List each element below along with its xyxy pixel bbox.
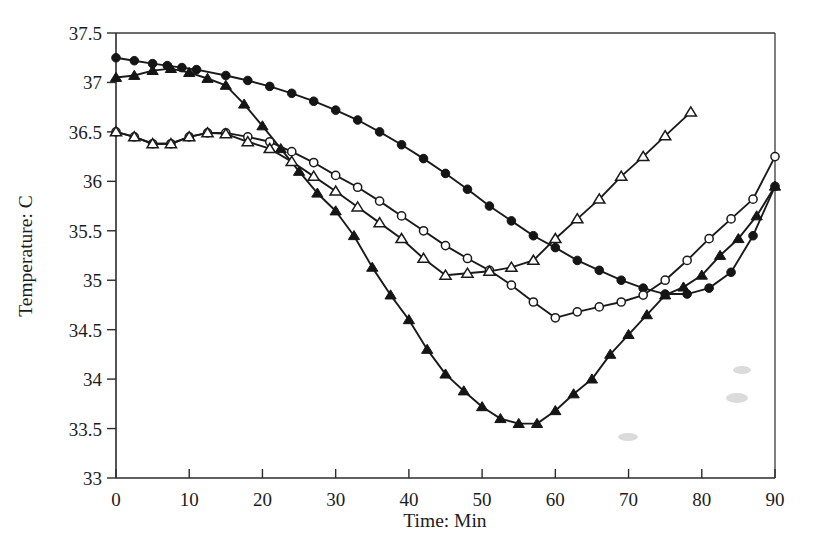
series-layer (110, 53, 780, 427)
plot-frame (116, 33, 775, 478)
x-tick-label: 70 (619, 489, 638, 510)
data-point-marker (595, 303, 603, 311)
x-tick-label: 10 (180, 489, 199, 510)
data-point-marker (551, 314, 559, 322)
data-point-marker (331, 106, 340, 115)
data-point-marker (419, 227, 427, 235)
data-point-marker (507, 281, 515, 289)
data-point-marker (751, 211, 762, 220)
line-chart-canvas: 3333.53434.53535.53636.53737.5 010203040… (0, 0, 819, 548)
y-tick-label: 37 (83, 72, 102, 93)
y-axis-ticks: 3333.53434.53535.53636.53737.5 (69, 23, 116, 489)
x-tick-label: 60 (546, 489, 565, 510)
data-point-marker (222, 71, 231, 80)
data-point-marker (617, 298, 625, 306)
data-point-marker (685, 107, 696, 116)
data-point-marker (192, 65, 201, 74)
data-point-marker (309, 97, 318, 106)
x-tick-label: 90 (766, 489, 785, 510)
data-point-marker (749, 231, 758, 240)
data-point-marker (771, 153, 779, 161)
data-point-marker (573, 256, 582, 265)
x-axis-ticks: 0102030405060708090 (111, 469, 784, 510)
data-point-marker (244, 76, 253, 85)
y-tick-label: 36.5 (69, 122, 102, 143)
data-point-marker (727, 268, 736, 277)
paper-speck (733, 366, 751, 374)
y-tick-label: 35.5 (69, 221, 102, 242)
data-point-marker (375, 128, 384, 137)
data-series (110, 107, 696, 279)
y-tick-label: 33.5 (69, 419, 102, 440)
data-point-marker (727, 215, 735, 223)
data-point-marker (385, 290, 396, 299)
x-tick-label: 20 (253, 489, 272, 510)
data-point-marker (112, 53, 121, 62)
chart-figure: 3333.53434.53535.53636.53737.5 010203040… (0, 0, 819, 548)
data-point-marker (463, 254, 471, 262)
data-point-marker (551, 243, 560, 252)
x-tick-label: 0 (111, 489, 121, 510)
y-axis-title: Temperature: C (15, 195, 36, 317)
data-point-marker (353, 116, 362, 125)
data-point-marker (265, 82, 274, 91)
data-point-marker (441, 242, 449, 250)
data-point-marker (310, 158, 318, 166)
data-point-marker (495, 413, 506, 422)
x-tick-label: 30 (326, 489, 345, 510)
data-point-marker (397, 212, 405, 220)
data-point-marker (330, 186, 341, 195)
data-point-marker (332, 171, 340, 179)
data-point-marker (705, 284, 714, 293)
data-point-marker (287, 89, 296, 98)
data-point-marker (595, 266, 604, 275)
paper-speck (726, 393, 748, 403)
data-point-marker (367, 262, 378, 271)
x-axis-title: Time: Min (403, 510, 487, 531)
y-tick-label: 34 (83, 369, 103, 390)
data-point-marker (288, 148, 296, 156)
data-point-marker (376, 197, 384, 205)
data-point-marker (529, 231, 538, 240)
data-point-marker (639, 291, 647, 299)
data-point-marker (529, 298, 537, 306)
x-tick-label: 50 (473, 489, 492, 510)
x-tick-label: 80 (692, 489, 711, 510)
data-point-marker (130, 56, 139, 65)
data-point-marker (573, 308, 581, 316)
data-point-marker (683, 256, 691, 264)
data-point-marker (485, 202, 494, 211)
data-point-marker (705, 235, 713, 243)
data-series (112, 53, 780, 298)
data-point-marker (419, 154, 428, 163)
data-point-marker (463, 185, 472, 194)
y-tick-label: 37.5 (69, 23, 102, 44)
x-tick-label: 40 (399, 489, 418, 510)
data-point-marker (661, 276, 669, 284)
data-point-marker (308, 171, 319, 180)
y-tick-label: 36 (83, 171, 102, 192)
data-point-marker (749, 195, 757, 203)
y-tick-label: 35 (83, 270, 102, 291)
data-point-marker (617, 276, 626, 285)
y-tick-label: 34.5 (69, 320, 102, 341)
data-point-marker (507, 217, 516, 226)
data-point-marker (354, 183, 362, 191)
data-series (112, 128, 779, 322)
paper-speck (618, 433, 638, 441)
data-point-marker (441, 169, 450, 178)
data-point-marker (678, 282, 689, 291)
y-tick-label: 33 (83, 468, 102, 489)
data-point-marker (422, 344, 433, 353)
data-point-marker (397, 140, 406, 149)
